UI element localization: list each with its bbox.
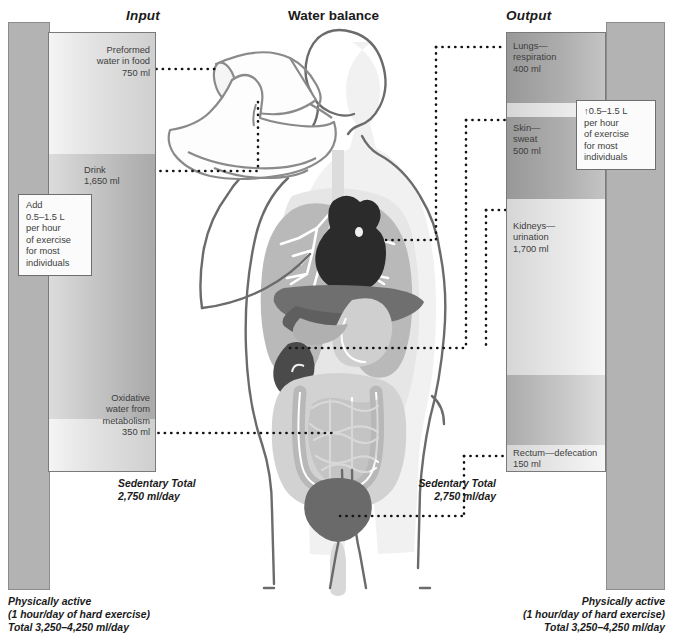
input-segment-drink-label: Drink 1,650 ml — [84, 165, 120, 188]
output-segment-lungs-label: Lungs— respiration 400 ml — [513, 41, 556, 75]
input-segment-oxidative-water-label: Oxidative water from metabolism 350 ml — [102, 393, 150, 439]
output-segment-kidneys: Kidneys— urination 1,700 ml — [507, 199, 605, 375]
output-segment-rectum-label: Rectum—defecation 150 ml — [513, 448, 597, 471]
input-sedentary-total: Sedentary Total 2,750 ml/day — [118, 478, 196, 503]
output-segment-rectum: Rectum—defecation 150 ml — [507, 445, 605, 471]
input-active-bar — [8, 22, 50, 590]
input-segment-preformed-water-label: Preformed water in food 750 ml — [97, 45, 150, 79]
output-segment-gap-2 — [507, 375, 605, 445]
output-active-total: Physically active (1 hour/day of hard ex… — [405, 596, 665, 634]
output-segment-kidneys-label: Kidneys— urination 1,700 ml — [513, 221, 555, 255]
input-segment-preformed-water: Preformed water in food 750 ml — [49, 33, 155, 154]
output-segment-lungs: Lungs— respiration 400 ml — [507, 33, 605, 103]
output-sedentary-total: Sedentary Total 2,750 ml/day — [368, 478, 496, 503]
output-sedentary-bar: Lungs— respiration 400 ml Skin— sweat 50… — [506, 32, 606, 472]
page-title: Water balance — [288, 8, 379, 23]
output-segment-skin-label: Skin— sweat 500 ml — [513, 123, 541, 157]
input-active-total: Physically active (1 hour/day of hard ex… — [8, 596, 150, 634]
output-column-label: Output — [506, 8, 551, 23]
input-column-label: Input — [126, 8, 160, 23]
output-exercise-callout: ↑0.5–1.5 L per hour of exercise for most… — [576, 100, 656, 170]
water-balance-diagram: Preformed water in food 750 ml Oxidative… — [0, 0, 673, 638]
input-segment-oxidative-water: Oxidative water from metabolism 350 ml — [49, 419, 155, 471]
input-exercise-callout: Add 0.5–1.5 L per hour of exercise for m… — [18, 194, 92, 276]
